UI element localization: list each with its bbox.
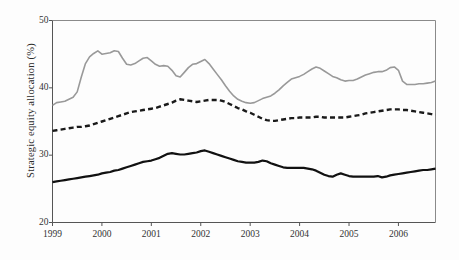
chart-figure: Strategic equity allocation (%) 50 40 30… — [0, 0, 459, 260]
series-line-upper-gray — [53, 51, 436, 106]
axis-lines — [49, 21, 436, 227]
data-series-layer — [53, 51, 436, 182]
series-line-lower-black — [53, 150, 436, 182]
plot-area — [0, 0, 459, 260]
series-line-middle-dashed — [53, 99, 436, 131]
